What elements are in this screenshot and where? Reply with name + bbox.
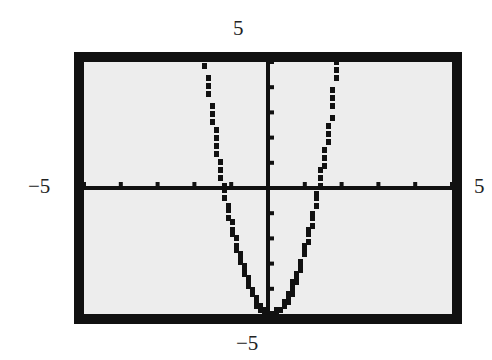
curve-pixel xyxy=(222,195,227,201)
x-tick xyxy=(413,182,417,188)
curve-pixel xyxy=(218,159,223,165)
curve-pixel xyxy=(330,95,335,101)
calculator-screen-frame xyxy=(74,52,462,324)
curve-pixel xyxy=(334,75,339,81)
curve-pixel xyxy=(306,239,311,245)
curve-pixel xyxy=(202,63,207,69)
curve-pixel xyxy=(218,167,223,173)
curve-pixel xyxy=(326,139,331,145)
ymax-label: 5 xyxy=(233,18,244,39)
curve-pixel xyxy=(310,211,315,217)
curve-pixel xyxy=(314,203,319,209)
x-tick xyxy=(84,182,86,188)
x-tick xyxy=(376,182,380,188)
y-tick xyxy=(268,236,274,240)
x-tick xyxy=(119,182,123,188)
curve-pixel xyxy=(322,147,327,153)
curve-pixel xyxy=(214,151,219,157)
x-tick xyxy=(156,182,160,188)
graph-screen xyxy=(84,62,452,314)
y-tick xyxy=(268,110,274,114)
curve-pixel xyxy=(326,131,331,137)
y-tick xyxy=(268,136,274,140)
curve-pixel xyxy=(206,91,211,97)
y-tick xyxy=(268,287,274,291)
curve-pixel xyxy=(330,87,335,93)
curve-pixel xyxy=(218,175,223,181)
curve-pixel xyxy=(206,83,211,89)
curve-pixel xyxy=(322,163,327,169)
curve-pixel xyxy=(318,175,323,181)
curve-pixel xyxy=(334,67,339,73)
curve-pixel xyxy=(334,62,339,65)
plot-area xyxy=(84,62,452,314)
y-tick xyxy=(268,262,274,266)
curve-pixel xyxy=(318,183,323,189)
curve-pixel xyxy=(210,119,215,125)
curve-pixel xyxy=(226,207,231,213)
x-tick xyxy=(303,182,307,188)
y-tick xyxy=(268,85,274,89)
curve-pixel xyxy=(214,135,219,141)
curve-pixel xyxy=(326,123,331,129)
y-axis xyxy=(266,62,270,314)
curve-pixel xyxy=(234,235,239,241)
curve-pixel xyxy=(222,187,227,193)
x-tick xyxy=(192,182,196,188)
ymin-label: −5 xyxy=(236,333,258,354)
curve-pixel xyxy=(330,103,335,109)
curve-pixel xyxy=(210,103,215,109)
curve-pixel xyxy=(206,75,211,81)
xmax-label: 5 xyxy=(474,176,485,197)
y-tick xyxy=(268,161,274,165)
curve-pixel xyxy=(214,127,219,133)
curve-pixel xyxy=(214,143,219,149)
curve-pixel xyxy=(210,111,215,117)
curve-pixel xyxy=(230,219,235,225)
curve-pixel xyxy=(314,191,319,197)
y-tick xyxy=(268,62,274,64)
xmin-label: −5 xyxy=(28,176,50,197)
curve-pixel xyxy=(322,155,327,161)
y-tick xyxy=(268,211,274,215)
curve-pixel xyxy=(298,259,303,265)
x-tick xyxy=(450,182,452,188)
x-tick xyxy=(229,182,233,188)
curve-pixel xyxy=(310,223,315,229)
curve-pixel xyxy=(330,115,335,121)
x-tick xyxy=(340,182,344,188)
